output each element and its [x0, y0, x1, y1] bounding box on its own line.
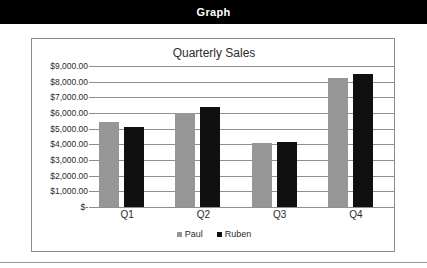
page-body: Quarterly Sales $9,000.00$8,000.00$7,000… — [0, 24, 427, 268]
bar-paul-q1 — [99, 122, 119, 207]
y-axis-tick-label: $2,000.00 — [34, 171, 88, 181]
bar-ruben-q3 — [277, 142, 297, 207]
legend-label: Paul — [185, 229, 203, 239]
y-axis-tick-label: $- — [34, 202, 88, 212]
bar-group — [242, 66, 318, 207]
y-axis-labels: $9,000.00$8,000.00$7,000.00$6,000.00$5,0… — [32, 66, 88, 208]
y-axis-tick-label: $6,000.00 — [34, 108, 88, 118]
y-axis-tick-label: $5,000.00 — [34, 124, 88, 134]
bar-ruben-q2 — [200, 107, 220, 207]
x-axis-tick-label: Q1 — [89, 209, 165, 220]
legend-swatch-icon — [217, 232, 222, 237]
bars-layer — [89, 66, 394, 208]
x-axis-tick-label: Q3 — [242, 209, 318, 220]
y-axis-tick-label: $9,000.00 — [34, 61, 88, 71]
bar-ruben-q4 — [353, 74, 373, 207]
y-axis-tick-label: $7,000.00 — [34, 92, 88, 102]
page-bottom-divider — [0, 262, 427, 263]
y-axis-tick-label: $3,000.00 — [34, 155, 88, 165]
y-axis-tick-label: $4,000.00 — [34, 139, 88, 149]
bar-ruben-q1 — [124, 127, 144, 207]
chart-legend: PaulRuben — [32, 229, 396, 239]
window-header-bar: Graph — [0, 0, 427, 24]
bar-group — [165, 66, 241, 207]
bar-paul-q4 — [328, 78, 348, 207]
chart-title: Quarterly Sales — [32, 46, 396, 60]
plot-area — [89, 66, 394, 208]
bar-paul-q3 — [252, 143, 272, 207]
page-title: Graph — [197, 6, 231, 18]
x-axis-tick-label: Q2 — [165, 209, 241, 220]
bar-group — [89, 66, 165, 207]
legend-item-paul[interactable]: Paul — [177, 229, 203, 239]
bar-group — [318, 66, 394, 207]
legend-swatch-icon — [177, 232, 182, 237]
legend-label: Ruben — [225, 229, 252, 239]
y-axis-tick-label: $8,000.00 — [34, 77, 88, 87]
y-axis-tick-label: $1,000.00 — [34, 186, 88, 196]
bar-paul-q2 — [175, 113, 195, 207]
x-axis-labels: Q1Q2Q3Q4 — [89, 209, 394, 225]
x-axis-tick-label: Q4 — [318, 209, 394, 220]
legend-item-ruben[interactable]: Ruben — [217, 229, 252, 239]
chart-container: Quarterly Sales $9,000.00$8,000.00$7,000… — [31, 38, 395, 252]
